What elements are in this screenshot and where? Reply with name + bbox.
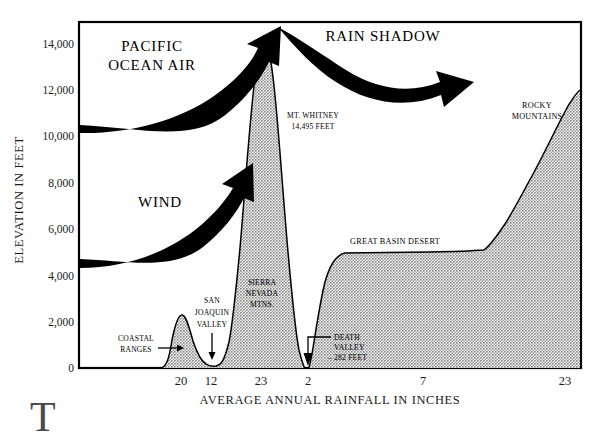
san-joaquin-valley-label-line3: VALLEY [197,320,228,329]
sierra-nevada-label-line3: MTNS. [250,300,274,309]
ytick-label-2000: 2,000 [48,316,74,329]
coastal-ranges-label-line2: RANGES [120,345,152,354]
wind-label: WIND [138,194,182,210]
xtick-label-4: 2 [305,374,311,388]
ytick-label-8000: 8,000 [48,177,74,190]
ytick-label-6000: 6,000 [48,223,74,236]
san-joaquin-valley-label-line2: JOAQUIN [195,308,230,317]
xtick-label-3: 23 [255,374,268,388]
death-valley-label-line2: VALLEY [334,343,365,352]
pacific-ocean-air-label-line2: OCEAN AIR [108,57,196,73]
mt-whitney-label-line2: 14,495 FEET [291,122,334,131]
great-basin-desert-label: GREAT BASIN DESERT [350,237,440,246]
death-valley-elevation-label: – 282 FEET [327,353,367,362]
death-valley-label-line1: DEATH [334,333,360,342]
ytick-label-10000: 10,000 [42,130,74,143]
sierra-nevada-label-line2: NEVADA [246,289,279,298]
rain-shadow-label: RAIN SHADOW [325,28,440,44]
pacific-ocean-air-label-line1: PACIFIC [121,38,183,54]
mt-whitney-label-line1: MT. WHITNEY [287,111,339,120]
ytick-label-0: 0 [68,362,74,374]
ytick-label-4000: 4,000 [48,270,74,283]
xtick-label-5: 7 [420,374,426,388]
coastal-ranges-label-line1: COASTAL [118,334,154,343]
xtick-label-1: 20 [175,374,188,388]
sierra-nevada-label-line1: SIERRA [248,278,277,287]
xtick-label-6: 23 [559,374,572,388]
xtick-label-2: 12 [205,374,218,388]
ytick-label-14000: 14,000 [42,38,74,51]
san-joaquin-valley-label-line1: SAN [204,296,220,305]
y-axis-title: ELEVATION IN FEET [12,136,26,263]
body-text-dropcap: T [30,396,56,435]
rocky-mountains-label-line1: ROCKY [522,101,552,110]
rocky-mountains-label-line2: MOUNTAINS [512,112,563,121]
x-axis-title: AVERAGE ANNUAL RAINFALL IN INCHES [200,393,461,407]
ytick-label-12000: 12,000 [42,84,74,97]
